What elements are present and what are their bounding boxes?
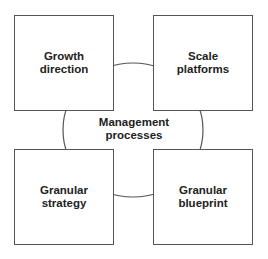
box-granular-strategy: Granular strategy	[14, 149, 114, 245]
box-granular-blueprint: Granular blueprint	[153, 149, 253, 245]
box-label: Scale platforms	[177, 50, 229, 76]
box-label: Granular strategy	[40, 184, 88, 210]
box-scale-platforms: Scale platforms	[153, 15, 253, 111]
box-label: Growth direction	[40, 50, 89, 76]
center-label: Management processes	[84, 116, 184, 142]
box-growth-direction: Growth direction	[14, 15, 114, 111]
box-label: Granular blueprint	[178, 184, 227, 210]
